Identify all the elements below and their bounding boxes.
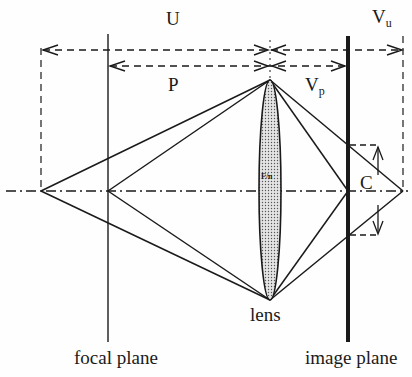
label-lens-aperture: F/n [261,172,273,181]
label-vu-sub: u [386,16,392,30]
label-vp-sub: p [319,84,325,98]
label-c: C [360,172,373,194]
label-u: U [166,8,180,30]
label-focal-plane: focal plane [74,347,158,369]
label-p: P [168,74,179,96]
diagram-canvas [0,0,412,377]
label-vp: Vp [305,74,325,99]
label-vp-main: V [305,74,319,95]
label-vu: Vu [372,6,392,31]
label-image-plane: image plane [305,347,397,369]
lens-shape [259,80,281,300]
thin-lens-depth-of-field-diagram: U P Vp Vu C F/n lens focal plane image p… [0,0,412,377]
label-lens: lens [250,304,281,326]
label-vu-main: V [372,6,386,27]
